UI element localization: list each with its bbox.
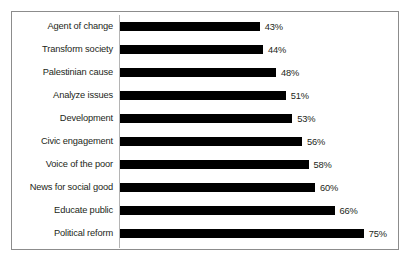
bar-category-label: Educate public	[12, 205, 113, 216]
bar-fill	[120, 137, 302, 146]
bar-fill	[120, 91, 286, 100]
bar-row: Voice of the poor 58%	[12, 153, 398, 176]
plot-area: Agent of change 43% Transform society 44…	[12, 12, 398, 249]
bar-track: 51%	[120, 84, 398, 107]
bar-value-label: 51%	[291, 91, 309, 101]
bar-row: Transform society 44%	[12, 38, 398, 61]
bar-track: 43%	[120, 15, 398, 38]
bar-row: News for social good 60%	[12, 176, 398, 199]
bar-value-label: 66%	[340, 206, 358, 216]
bar-category-label: Development	[12, 113, 113, 124]
bar-track: 66%	[120, 199, 398, 222]
bar-fill	[120, 160, 309, 169]
bar-category-label: News for social good	[12, 182, 113, 193]
bar-fill	[120, 22, 260, 31]
bar-row: Development 53%	[12, 107, 398, 130]
bar-category-label: Voice of the poor	[12, 159, 113, 170]
bar-category-label: Analyze issues	[12, 90, 113, 101]
bar-value-label: 43%	[265, 22, 283, 32]
bar-category-label: Agent of change	[12, 21, 113, 32]
bar-value-label: 48%	[281, 68, 299, 78]
bar-value-label: 75%	[369, 229, 387, 239]
bar-fill	[120, 183, 315, 192]
bar-track: 58%	[120, 153, 398, 176]
bar-category-label: Political reform	[12, 228, 113, 239]
bar-track: 75%	[120, 222, 398, 245]
bar-row: Palestinian cause 48%	[12, 61, 398, 84]
bar-value-label: 56%	[307, 137, 325, 147]
bar-row: Educate public 66%	[12, 199, 398, 222]
bar-track: 56%	[120, 130, 398, 153]
bar-category-label: Transform society	[12, 44, 113, 55]
bar-fill	[120, 114, 292, 123]
bar-value-label: 53%	[297, 114, 315, 124]
bar-value-label: 44%	[268, 45, 286, 55]
bar-row: Analyze issues 51%	[12, 84, 398, 107]
bar-track: 60%	[120, 176, 398, 199]
bar-fill	[120, 229, 364, 238]
bar-track: 48%	[120, 61, 398, 84]
bar-value-label: 60%	[320, 183, 338, 193]
bar-row: Civic engagement 56%	[12, 130, 398, 153]
bar-row: Political reform 75%	[12, 222, 398, 245]
bar-track: 44%	[120, 38, 398, 61]
chart-frame: Agent of change 43% Transform society 44…	[11, 11, 399, 250]
bar-fill	[120, 206, 335, 215]
bar-track: 53%	[120, 107, 398, 130]
bar-row: Agent of change 43%	[12, 15, 398, 38]
bar-value-label: 58%	[314, 160, 332, 170]
bar-fill	[120, 45, 263, 54]
bar-fill	[120, 68, 276, 77]
bar-category-label: Civic engagement	[12, 136, 113, 147]
bar-category-label: Palestinian cause	[12, 67, 113, 78]
